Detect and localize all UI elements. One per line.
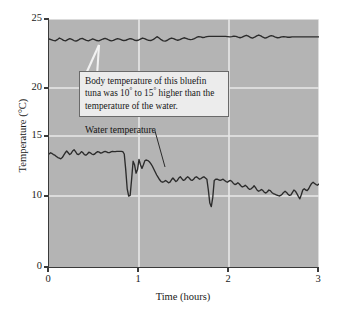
x-axis-title: Time (hours) [48,291,318,302]
plot-canvas [49,19,319,267]
x-tick-label-2: 2 [216,274,240,285]
callout-line-2-part-b: to 15 [132,88,153,98]
y-tick-label-25: 25 [20,13,42,24]
callout-line-3: temperature of the water. [85,101,178,111]
series-line-body-temperature [49,35,319,41]
callout-line-2-part-c: higher than the [156,88,214,98]
y-tick-label-0: 0 [20,261,42,272]
x-tick-label-0: 0 [36,274,60,285]
callout-line-2-part-a: tuna was 10 [85,88,129,98]
x-tick-label-1: 1 [126,274,150,285]
body-temperature-callout: Body temperature of this bluefin tuna wa… [79,71,229,117]
x-tick-label-3: 3 [306,274,330,285]
temperature-chart-figure: 25 20 15 10 0 0 1 2 3 [0,0,341,313]
plot-area [48,19,319,268]
data-series-layer [49,35,319,207]
callout-line-1: Body temperature of this bluefin [85,76,206,86]
gridlines [49,19,319,267]
series-line-water-temperature [49,150,319,207]
water-temperature-label: Water temperature [85,124,156,135]
y-axis-title: Temperature (°C) [17,56,28,216]
